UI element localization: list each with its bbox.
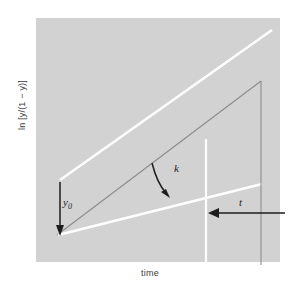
k-curve-arrow-head bbox=[161, 189, 170, 198]
lower-white-line bbox=[58, 184, 262, 235]
upper-white-line bbox=[60, 30, 272, 180]
annotation-y0: y0 bbox=[63, 196, 72, 211]
x-axis-label: time bbox=[110, 268, 190, 278]
figure-container: ln [y/(1 − y)] time y0 k t bbox=[0, 0, 295, 292]
middle-gray-line bbox=[57, 81, 261, 235]
y-axis-label: ln [y/(1 − y)] bbox=[17, 45, 27, 165]
annotation-k: k bbox=[174, 162, 179, 174]
t-arrow-head bbox=[208, 208, 219, 218]
plot-graphics bbox=[0, 0, 295, 292]
annotation-y0-subscript: 0 bbox=[68, 202, 72, 211]
k-curve-arrow-shaft bbox=[152, 163, 166, 193]
annotation-t: t bbox=[239, 196, 242, 208]
